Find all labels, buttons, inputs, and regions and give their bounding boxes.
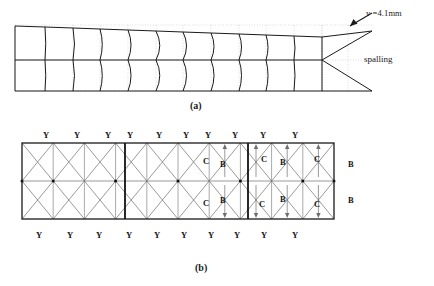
bottom-bc-label: Y bbox=[154, 231, 160, 240]
top-bc-label: Y bbox=[205, 131, 211, 140]
panel-b-drawing bbox=[0, 0, 434, 286]
right-bc-label: B bbox=[348, 160, 354, 169]
bottom-bc-label: Y bbox=[181, 231, 187, 240]
figure-container: v =4.1mm spalling (a) (b) YYYYYYYYYYYYYY… bbox=[0, 0, 434, 286]
top-bc-label: Y bbox=[183, 131, 189, 140]
mesh-node bbox=[114, 180, 117, 183]
panel-a-caption: (a) bbox=[190, 101, 202, 111]
restraint-arrowhead bbox=[316, 213, 320, 218]
interior-bc-label: C bbox=[314, 155, 320, 164]
bottom-bc-label: Y bbox=[67, 231, 73, 240]
restraint-arrowhead bbox=[254, 144, 258, 149]
restraint-arrowhead bbox=[285, 213, 289, 218]
top-bc-label: Y bbox=[127, 131, 133, 140]
mesh-node bbox=[52, 180, 55, 183]
interior-bc-label: B bbox=[220, 160, 226, 169]
top-bc-label: Y bbox=[43, 131, 49, 140]
interior-bc-label: C bbox=[203, 199, 209, 208]
displacement-annotation: v =4.1mm bbox=[366, 9, 402, 18]
top-bc-label: Y bbox=[156, 131, 162, 140]
mesh-node bbox=[239, 180, 242, 183]
top-bc-label: Y bbox=[260, 131, 266, 140]
bottom-bc-label: Y bbox=[208, 231, 214, 240]
bottom-bc-label: Y bbox=[96, 231, 102, 240]
panel-b-caption: (b) bbox=[195, 263, 207, 273]
top-bc-label: Y bbox=[292, 131, 298, 140]
bottom-bc-label: Y bbox=[126, 231, 132, 240]
interior-bc-label: C bbox=[314, 200, 320, 209]
mesh-node bbox=[177, 180, 180, 183]
restraint-arrowhead bbox=[285, 144, 289, 149]
interior-bc-label: C bbox=[203, 157, 209, 166]
interior-bc-label: B bbox=[220, 196, 226, 205]
panel-b-mesh bbox=[21, 143, 336, 219]
top-bc-label: Y bbox=[74, 131, 80, 140]
bottom-bc-label: Y bbox=[234, 231, 240, 240]
spalling-annotation: spalling bbox=[364, 55, 393, 64]
restraint-arrowhead bbox=[316, 144, 320, 149]
interior-bc-label: B bbox=[280, 195, 286, 204]
restraint-arrowhead bbox=[254, 213, 258, 218]
top-bc-label: Y bbox=[105, 131, 111, 140]
interior-bc-label: C bbox=[259, 200, 265, 209]
bottom-bc-label: Y bbox=[292, 231, 298, 240]
restraint-arrowhead bbox=[223, 213, 227, 218]
interior-bc-label: C bbox=[261, 155, 267, 164]
restraint-arrowhead bbox=[223, 144, 227, 149]
mesh-node bbox=[301, 180, 304, 183]
bottom-bc-label: Y bbox=[36, 231, 42, 240]
interior-bc-label: B bbox=[280, 158, 286, 167]
bottom-bc-label: Y bbox=[261, 231, 267, 240]
top-bc-label: Y bbox=[232, 131, 238, 140]
right-bc-label: B bbox=[348, 196, 354, 205]
